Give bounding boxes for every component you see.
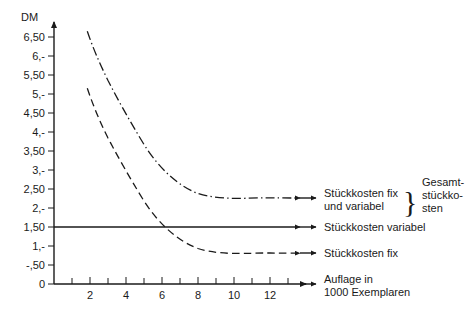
annotation-gesamt-line2: und variabel bbox=[324, 200, 384, 212]
y-tick-label-4: 4,- bbox=[32, 126, 45, 138]
annotation-brace-line1: Gesamt- bbox=[422, 176, 465, 188]
y-tick-label-6: 6,- bbox=[32, 50, 45, 62]
y-tick-marks bbox=[48, 37, 54, 284]
y-tick-label-450: 4,50 bbox=[24, 107, 45, 119]
y-tick-label-550: 5,50 bbox=[24, 69, 45, 81]
x-tick-label-4: 4 bbox=[123, 289, 129, 301]
x-tick-marks bbox=[72, 277, 288, 284]
x-tick-label-8: 8 bbox=[195, 289, 201, 301]
x-axis-title-line1: Auflage in bbox=[324, 273, 373, 285]
x-tick-labels: 2 4 6 8 10 12 bbox=[87, 289, 276, 301]
annotation-brace-line3: sten bbox=[422, 202, 443, 214]
x-tick-label-10: 10 bbox=[228, 289, 240, 301]
y-tick-labels: 0 -,50 1,- 1,50 2,- 2,50 3,- 3,50 4,- 4,… bbox=[24, 31, 46, 290]
y-tick-label-2: 2,- bbox=[32, 202, 45, 214]
y-tick-label-150: 1,50 bbox=[24, 221, 45, 233]
annotation-stueckkosten-variabel: Stückkosten variabel bbox=[324, 221, 426, 233]
curve-gesamtstueckkosten bbox=[87, 31, 300, 198]
x-tick-label-2: 2 bbox=[87, 289, 93, 301]
annotation-stueckkosten-fix: Stückkosten fix bbox=[324, 247, 398, 259]
y-tick-label-3: 3,- bbox=[32, 164, 45, 176]
y-tick-label-5: 5,- bbox=[32, 88, 45, 100]
annotation-fix-label: Stückkosten fix bbox=[324, 247, 398, 259]
y-tick-label-650: 6,50 bbox=[24, 31, 45, 43]
x-axis-title-line2: 1000 Exemplaren bbox=[324, 286, 410, 298]
annotation-variabel-label: Stückkosten variabel bbox=[324, 221, 426, 233]
curly-brace-icon: } bbox=[403, 185, 417, 218]
x-tick-label-6: 6 bbox=[159, 289, 165, 301]
x-tick-label-12: 12 bbox=[264, 289, 276, 301]
y-tick-label-1: 1,- bbox=[32, 240, 45, 252]
curve-stueckkosten-fix bbox=[87, 88, 300, 253]
cost-curve-chart: DM 0 -,50 1,- 1,50 2,- 2,50 3,- bbox=[0, 0, 472, 315]
annotation-x-axis-title: Auflage in 1000 Exemplaren bbox=[324, 273, 410, 298]
chart-container: DM 0 -,50 1,- 1,50 2,- 2,50 3,- bbox=[0, 0, 472, 315]
annotation-gesamt-line1: Stückkosten fix bbox=[324, 187, 398, 199]
y-axis-title: DM bbox=[21, 11, 38, 23]
y-tick-label-350: 3,50 bbox=[24, 145, 45, 157]
y-tick-label-050: -,50 bbox=[26, 259, 45, 271]
annotation-gesamtstueckkosten: Stückkosten fix und variabel } Gesamt- s… bbox=[324, 176, 465, 218]
y-tick-label-250: 2,50 bbox=[24, 183, 45, 195]
y-tick-label-0: 0 bbox=[39, 278, 45, 290]
annotation-leaders bbox=[300, 198, 316, 284]
annotation-brace-line2: stückko- bbox=[422, 189, 463, 201]
